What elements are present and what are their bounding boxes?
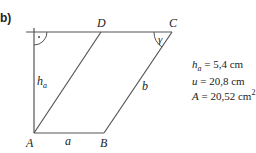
given-values: ha = 5,4 cm u = 20,8 cm A = 20,52 cm2 xyxy=(192,58,255,102)
given-height: ha = 5,4 cm xyxy=(192,58,255,75)
vertex-a-label: A xyxy=(25,136,34,150)
given-area: A = 20,52 cm2 xyxy=(192,87,255,102)
height-label: ha xyxy=(37,74,47,90)
right-angle-dot xyxy=(38,36,40,38)
vertex-b-label: B xyxy=(100,136,108,150)
side-b-label: b xyxy=(142,79,148,93)
vertex-d-label: D xyxy=(96,16,106,30)
right-angle-arc xyxy=(34,32,47,45)
gamma-label: γ xyxy=(158,33,163,45)
parallelogram-diagram: b) γ D C A B a b ha ha = 5,4 cm u = 20,8… xyxy=(0,0,256,153)
side-a-label: a xyxy=(65,134,71,148)
vertex-c-label: C xyxy=(169,16,178,30)
given-perimeter: u = 20,8 cm xyxy=(192,75,255,87)
part-label: b) xyxy=(0,11,11,25)
